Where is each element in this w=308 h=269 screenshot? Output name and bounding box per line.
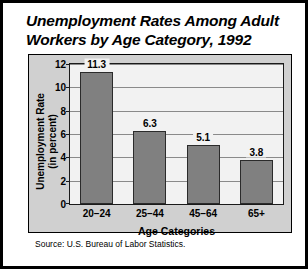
y-axis-tick-label: 0 <box>60 199 66 210</box>
y-axis-tick-label: 2 <box>60 175 66 186</box>
y-axis-tick-label: 8 <box>60 105 66 116</box>
x-axis-category-label: 65+ <box>248 208 265 219</box>
bar <box>187 145 220 205</box>
y-axis-tick-mark <box>66 134 70 135</box>
x-axis-title: Age Categories <box>69 225 284 237</box>
bar-value-label: 6.3 <box>140 117 160 128</box>
chart-container: Unemployment Rate (in percent) 024681012… <box>28 54 292 233</box>
page-title: Unemployment Rates Among Adult Workers b… <box>26 11 294 49</box>
y-axis-tick-mark <box>66 203 70 204</box>
x-axis-category-label: 25–44 <box>136 208 164 219</box>
bar-value-label: 3.8 <box>246 146 266 157</box>
y-axis-tick-label: 10 <box>55 82 66 93</box>
bar <box>240 160 273 204</box>
page-frame: Unemployment Rates Among Adult Workers b… <box>0 0 308 269</box>
y-axis-title-line1: Unemployment Rate <box>35 93 46 190</box>
plot-area: 02468101211.320–246.325–445.145–643.865+ <box>69 63 284 205</box>
y-axis-tick-mark <box>66 157 70 158</box>
bar <box>133 131 166 205</box>
x-axis-category-label: 45–64 <box>189 208 217 219</box>
y-axis-tick-label: 4 <box>60 152 66 163</box>
y-axis-tick-mark <box>66 64 70 65</box>
y-axis-tick-label: 12 <box>55 59 66 70</box>
page-inner: Unemployment Rates Among Adult Workers b… <box>9 6 299 263</box>
y-axis-title-line2: (in percent) <box>46 114 57 168</box>
bar <box>80 72 113 204</box>
bar-value-label: 5.1 <box>193 131 213 142</box>
y-axis-tick-label: 6 <box>60 129 66 140</box>
y-axis-title-band: Unemployment Rate (in percent) <box>29 55 56 232</box>
x-axis-category-label: 20–24 <box>83 208 111 219</box>
y-axis-tick-mark <box>66 111 70 112</box>
y-axis-tick-mark <box>66 181 70 182</box>
y-axis-tick-mark <box>66 87 70 88</box>
source-note: Source: U.S. Bureau of Labor Statistics. <box>35 239 185 249</box>
bar-value-label: 11.3 <box>84 59 109 70</box>
